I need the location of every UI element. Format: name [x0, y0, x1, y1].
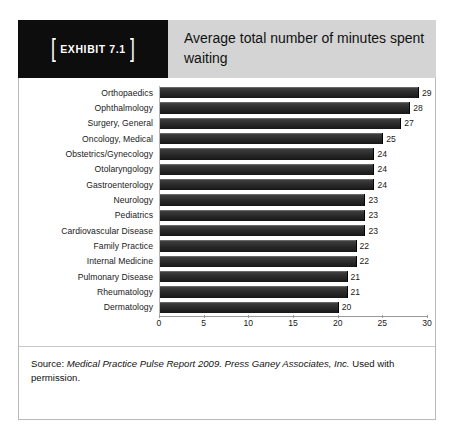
bar-track: 24 [159, 163, 427, 176]
bar-track: 21 [159, 270, 427, 283]
bar-rows: Orthopaedics29Ophthalmology28Surgery, Ge… [19, 86, 427, 314]
bar-category-label: Internal Medicine [19, 256, 159, 266]
bar-track: 23 [159, 224, 427, 237]
bar [159, 271, 348, 282]
bar-row: Obstetrics/Gynecology24 [19, 147, 427, 160]
bar-row: Otolaryngology24 [19, 163, 427, 176]
exhibit-title-text: Average total number of minutes spent wa… [184, 29, 436, 69]
bar-track: 28 [159, 101, 427, 114]
exhibit-container: [ EXHIBIT 7.1 ] Average total number of … [18, 20, 436, 420]
x-tick-label: 10 [244, 318, 254, 328]
x-tick-label: 25 [378, 318, 388, 328]
bar [159, 240, 357, 251]
x-tick-label: 30 [422, 318, 432, 328]
bar-category-label: Pulmonary Disease [19, 272, 159, 282]
bar-track: 29 [159, 86, 427, 99]
bar-row: Gastroenterology24 [19, 178, 427, 191]
bar-value-label: 29 [418, 88, 432, 98]
bar-value-label: 23 [364, 226, 378, 236]
bar [159, 179, 374, 190]
bar-track: 24 [159, 147, 427, 160]
bar-category-label: Cardiovascular Disease [19, 226, 159, 236]
bar-row: Pediatrics23 [19, 209, 427, 222]
chart-y-axis-line [159, 86, 160, 317]
bar-category-label: Surgery, General [19, 118, 159, 128]
bar-category-label: Family Practice [19, 241, 159, 251]
bar-track: 20 [159, 301, 427, 314]
bar-row: Rheumatology21 [19, 285, 427, 298]
bar-row: Cardiovascular Disease23 [19, 224, 427, 237]
bar-value-label: 22 [356, 241, 370, 251]
source-note: Source: Medical Practice Pulse Report 20… [19, 347, 435, 386]
exhibit-badge: [ EXHIBIT 7.1 ] [18, 20, 168, 78]
bar-category-label: Pediatrics [19, 210, 159, 220]
bar [159, 256, 357, 267]
bracket-left-icon: [ [51, 36, 56, 61]
x-tick-label: 15 [288, 318, 298, 328]
bar [159, 118, 401, 129]
bar [159, 210, 365, 221]
bar-value-label: 21 [347, 272, 361, 282]
x-tick-label: 0 [157, 318, 162, 328]
bar-value-label: 27 [400, 118, 414, 128]
bar [159, 286, 348, 297]
bar-row: Internal Medicine22 [19, 255, 427, 268]
x-tick-label: 20 [333, 318, 343, 328]
exhibit-title-panel: Average total number of minutes spent wa… [168, 20, 436, 78]
bar-value-label: 24 [373, 180, 387, 190]
bar [159, 302, 339, 313]
source-prefix: Source: [31, 358, 67, 369]
bar-track: 27 [159, 117, 427, 130]
bar [159, 225, 365, 236]
bar-row: Orthopaedics29 [19, 86, 427, 99]
chart: Orthopaedics29Ophthalmology28Surgery, Ge… [19, 78, 435, 346]
bar-value-label: 21 [347, 287, 361, 297]
exhibit-badge-label: EXHIBIT 7.1 [60, 43, 126, 55]
bar-row: Pulmonary Disease21 [19, 270, 427, 283]
bar-row: Family Practice22 [19, 239, 427, 252]
bar-category-label: Neurology [19, 195, 159, 205]
bar-category-label: Gastroenterology [19, 180, 159, 190]
bar-row: Surgery, General27 [19, 117, 427, 130]
bar [159, 164, 374, 175]
bar-track: 23 [159, 209, 427, 222]
bar-value-label: 24 [373, 164, 387, 174]
bar-value-label: 22 [356, 256, 370, 266]
bracket-right-icon: ] [130, 36, 135, 61]
bar-category-label: Oncology, Medical [19, 134, 159, 144]
bar-row: Dermatology20 [19, 301, 427, 314]
bar-row: Oncology, Medical25 [19, 132, 427, 145]
bar-track: 22 [159, 255, 427, 268]
bar-value-label: 20 [338, 302, 352, 312]
chart-x-axis-ticks: 051015202530 [159, 318, 427, 338]
bar-value-label: 25 [382, 134, 396, 144]
bar-category-label: Ophthalmology [19, 103, 159, 113]
bar [159, 87, 419, 98]
chart-plot-area: Orthopaedics29Ophthalmology28Surgery, Ge… [19, 86, 427, 346]
bar [159, 133, 383, 144]
bar-category-label: Otolaryngology [19, 164, 159, 174]
bar-category-label: Rheumatology [19, 287, 159, 297]
bar-value-label: 24 [373, 149, 387, 159]
bar-category-label: Orthopaedics [19, 88, 159, 98]
bar [159, 102, 410, 113]
bar-track: 24 [159, 178, 427, 191]
bar-track: 25 [159, 132, 427, 145]
bar-track: 22 [159, 239, 427, 252]
bar-row: Neurology23 [19, 193, 427, 206]
x-tick-label: 5 [201, 318, 206, 328]
bar-value-label: 23 [364, 195, 378, 205]
bar-row: Ophthalmology28 [19, 101, 427, 114]
bar-value-label: 28 [409, 103, 423, 113]
bar-track: 21 [159, 285, 427, 298]
exhibit-badge-inner: [ EXHIBIT 7.1 ] [50, 37, 135, 62]
bar [159, 194, 365, 205]
bar [159, 148, 374, 159]
bar-category-label: Dermatology [19, 302, 159, 312]
bar-track: 23 [159, 193, 427, 206]
bar-category-label: Obstetrics/Gynecology [19, 149, 159, 159]
bar-value-label: 23 [364, 210, 378, 220]
source-citation: Medical Practice Pulse Report 2009. Pres… [67, 358, 350, 369]
exhibit-body: Orthopaedics29Ophthalmology28Surgery, Ge… [18, 78, 436, 420]
exhibit-header: [ EXHIBIT 7.1 ] Average total number of … [18, 20, 436, 78]
